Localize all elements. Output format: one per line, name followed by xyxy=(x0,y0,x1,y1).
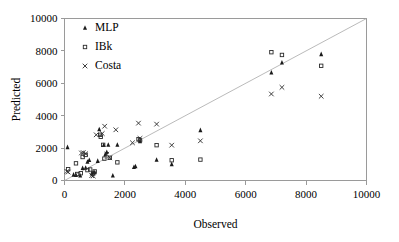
y-tick-label-8000: 8000 xyxy=(36,45,59,57)
x-axis-title: Observed xyxy=(193,218,237,230)
data-point-marker xyxy=(270,50,273,53)
y-tick-label-10000: 10000 xyxy=(30,12,58,24)
x-tick-label-0: 0 xyxy=(62,188,68,200)
data-point-marker xyxy=(319,94,324,99)
data-point-marker xyxy=(320,64,323,67)
x-tick-label-4000: 4000 xyxy=(174,188,197,200)
data-point-marker xyxy=(66,145,70,150)
data-point-marker xyxy=(154,122,159,127)
data-point-marker xyxy=(83,64,88,69)
data-point-marker xyxy=(83,45,86,48)
data-point-marker xyxy=(280,85,285,90)
data-point-marker xyxy=(280,60,284,65)
data-point-marker xyxy=(74,162,77,165)
data-point-marker xyxy=(198,139,203,144)
data-point-marker xyxy=(96,158,100,163)
data-point-marker xyxy=(102,124,107,129)
x-tick-label-8000: 8000 xyxy=(295,188,318,200)
y-tick-label-0: 0 xyxy=(52,174,58,186)
y-tick-label-4000: 4000 xyxy=(36,110,59,122)
legend-label-mlp: MLP xyxy=(95,21,119,33)
legend-label-costa: Costa xyxy=(95,59,121,71)
data-point-marker xyxy=(111,173,115,178)
scatter-chart: 0200040006000800010000020004000600080001… xyxy=(0,0,399,242)
data-point-marker xyxy=(97,127,101,132)
data-point-marker xyxy=(115,142,119,147)
data-point-marker xyxy=(114,127,119,132)
data-point-marker xyxy=(155,157,159,162)
data-point-marker xyxy=(106,142,110,147)
legend: MLPIBkCosta xyxy=(83,21,122,71)
data-point-marker xyxy=(116,161,119,164)
data-point-marker xyxy=(83,25,87,30)
series-costa xyxy=(65,85,324,178)
data-point-marker xyxy=(269,92,274,97)
y-tick-label-2000: 2000 xyxy=(36,142,59,154)
data-point-marker xyxy=(94,133,99,138)
x-tick-label-2000: 2000 xyxy=(114,188,137,200)
chart-canvas: 0200040006000800010000020004000600080001… xyxy=(0,0,399,242)
data-point-marker xyxy=(170,159,173,162)
data-point-marker xyxy=(136,121,141,126)
data-point-marker xyxy=(198,128,202,133)
data-point-marker xyxy=(169,143,174,148)
data-point-marker xyxy=(280,53,283,56)
data-point-marker xyxy=(155,143,158,146)
data-point-marker xyxy=(87,158,91,163)
y-tick-label-6000: 6000 xyxy=(36,77,59,89)
y-axis-title: Predicted xyxy=(10,78,22,122)
x-tick-label-10000: 10000 xyxy=(353,188,381,200)
data-point-marker xyxy=(199,158,202,161)
legend-label-ibk: IBk xyxy=(95,40,113,52)
x-tick-label-6000: 6000 xyxy=(235,188,258,200)
data-point-marker xyxy=(319,52,323,57)
